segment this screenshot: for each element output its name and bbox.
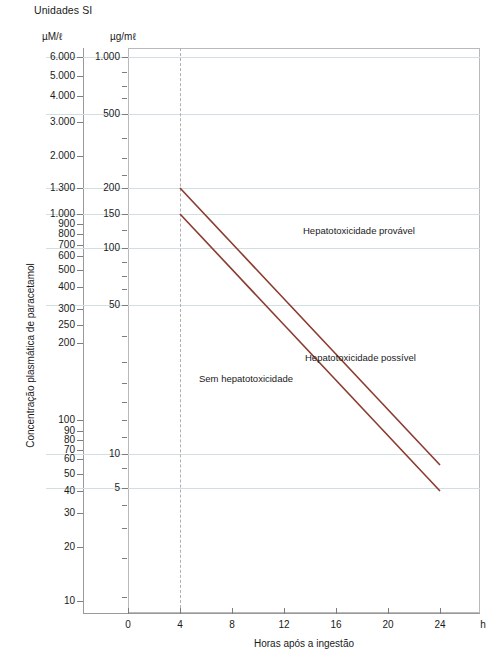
micromolar-tick [77, 234, 83, 235]
x-axis-tick [232, 608, 233, 614]
x-axis-tick-label: 24 [425, 619, 455, 630]
x-axis-tick-label: 4 [165, 619, 195, 630]
microgram-tick-label: 50 [76, 299, 120, 310]
x-axis-tick [284, 608, 285, 614]
micromolar-tick [77, 256, 83, 257]
micromolar-tick [77, 513, 83, 514]
microgram-minor-tick [122, 468, 127, 469]
y-axis-title: Concentração plasmática de paracetamol [25, 231, 36, 481]
microgram-minor-tick [122, 276, 127, 277]
micromolar-tick [77, 547, 83, 548]
microgram-minor-tick [122, 528, 127, 529]
microgram-minor-tick [122, 98, 127, 99]
microgram-minor-tick [122, 289, 127, 290]
micromolar-tick [77, 420, 83, 421]
microgram-tick-label: 10 [76, 448, 120, 459]
microgram-minor-tick [122, 262, 127, 263]
microgram-minor-tick [122, 420, 127, 421]
micromolar-tick-label: 4.000 [27, 90, 75, 101]
micromolar-axis-line [83, 48, 84, 613]
micromolar-tick-label: 2.000 [27, 150, 75, 161]
x-axis-tick-label: 0 [113, 619, 143, 630]
x-axis-tick [388, 608, 389, 614]
microgram-tick-label: 5 [76, 482, 120, 493]
microgram-tick-label: 500 [76, 108, 120, 119]
micromolar-tick-label: 5.000 [27, 70, 75, 81]
micromolar-tick [77, 343, 83, 344]
microgram-minor-tick [122, 597, 127, 598]
microgram-minor-tick [122, 402, 127, 403]
microgram-tick-label: 1.000 [76, 51, 120, 62]
micromolar-tick [77, 601, 83, 602]
micromolar-tick [77, 96, 83, 97]
x-axis-tick-label: 16 [321, 619, 351, 630]
x-axis-unit-label: h [473, 619, 493, 630]
microgram-minor-tick [122, 505, 127, 506]
micromolar-tick-label: 1.300 [27, 182, 75, 193]
page-title: Unidades SI [34, 4, 92, 16]
micromolar-tick [77, 122, 83, 123]
x-axis-tick [180, 608, 181, 614]
microgram-tick-label: 100 [76, 242, 120, 253]
micromolar-tick [77, 431, 83, 432]
microgram-tick-label: 150 [76, 208, 120, 219]
micromolar-tick [77, 156, 83, 157]
micromolar-tick-label: 20 [27, 541, 75, 552]
microgram-minor-tick [122, 175, 127, 176]
microgram-minor-tick [122, 383, 127, 384]
paracetamol-nomogram-chart: Unidades SI µM/ℓ µg/mℓ 6.0005.0004.0003.… [0, 0, 497, 659]
microgram-minor-tick [122, 362, 127, 363]
microgram-minor-tick [122, 230, 127, 231]
micromolar-tick [77, 459, 83, 460]
zone-label-none: Sem hepatotoxicidade [199, 373, 293, 384]
microgram-minor-tick [122, 158, 127, 159]
microgram-minor-tick [122, 72, 127, 73]
microgram-tick-label: 200 [76, 182, 120, 193]
microgram-minor-tick [122, 558, 127, 559]
x-axis-tick-label: 20 [373, 619, 403, 630]
unit-header-microgram-per-ml: µg/mℓ [110, 31, 136, 42]
micromolar-tick [77, 440, 83, 441]
micromolar-tick-label: 3.000 [27, 116, 75, 127]
micromolar-tick-label: 10 [27, 595, 75, 606]
micromolar-tick [77, 76, 83, 77]
micromolar-tick [77, 270, 83, 271]
unit-header-micromolar: µM/ℓ [42, 31, 62, 42]
zone-label-probable: Hepatotoxicidade provável [303, 225, 415, 236]
micromolar-tick [77, 224, 83, 225]
x-axis-line [83, 613, 480, 614]
x-axis-tick-label: 12 [269, 619, 299, 630]
microgram-minor-tick [122, 86, 127, 87]
x-axis-title: Horas após a ingestão [128, 638, 480, 649]
treatment-lines [128, 48, 480, 613]
micromolar-tick [77, 474, 83, 475]
microgram-minor-tick [122, 336, 127, 337]
microgram-minor-tick [122, 138, 127, 139]
x-axis-tick [336, 608, 337, 614]
x-axis-tick [440, 608, 441, 614]
x-axis-tick-label: 8 [217, 619, 247, 630]
micromolar-tick-label: 30 [27, 507, 75, 518]
micromolar-tick-label: 6.000 [27, 51, 75, 62]
micromolar-tick [77, 325, 83, 326]
zone-label-possible: Hepatotoxicidade possível [305, 352, 416, 363]
microgram-minor-tick [122, 437, 127, 438]
x-axis-tick [128, 608, 129, 614]
micromolar-tick [77, 287, 83, 288]
micromolar-tick-label: 40 [27, 485, 75, 496]
